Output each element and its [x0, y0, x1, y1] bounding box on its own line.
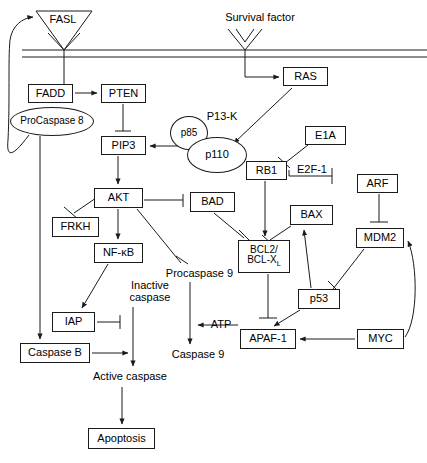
node-apoptosis-label: Apoptosis	[97, 433, 145, 445]
node-e2f1-label: E2F-1	[297, 164, 327, 176]
edge-myc-mdm2-curve	[405, 241, 415, 337]
node-survival-factor[interactable]: Survival factor	[205, 10, 315, 26]
node-caspase-b-label: Caspase B	[28, 347, 82, 359]
node-caspase9: Caspase 9	[163, 348, 233, 362]
node-inactive-caspase-line2: caspase	[130, 292, 171, 304]
pathway-diagram: FASL Survival factor FADD PTEN ProCaspas…	[0, 0, 427, 463]
survival-factor-receptor	[228, 29, 262, 77]
node-myc[interactable]: MYC	[357, 329, 404, 349]
edge-arf-mdm2	[370, 194, 388, 222]
node-bad-label: BAD	[201, 196, 224, 208]
node-atp: ATP	[205, 318, 237, 332]
node-p13k-label: P13-K	[207, 111, 238, 123]
edge-akt-frkh	[64, 198, 96, 219]
edge-pten-pip3	[115, 104, 131, 131]
node-p53-label: p53	[310, 293, 328, 305]
node-bax[interactable]: BAX	[290, 205, 333, 225]
node-nfkb[interactable]: NF-κB	[94, 243, 143, 263]
node-apoptosis[interactable]: Apoptosis	[88, 428, 155, 449]
edge-bcl2-apaf1	[259, 274, 277, 318]
node-nfkb-label: NF-κB	[103, 247, 134, 259]
node-active-caspase: Active caspase	[80, 370, 180, 384]
fas-receptor	[48, 33, 80, 84]
node-active-caspase-label: Active caspase	[93, 371, 167, 383]
node-pten-label: PTEN	[109, 88, 138, 100]
node-p53[interactable]: p53	[298, 289, 340, 309]
node-atp-label: ATP	[211, 319, 232, 331]
node-caspase-b[interactable]: Caspase B	[20, 343, 90, 363]
node-ras[interactable]: RAS	[283, 67, 328, 86]
edge-akt-bad	[144, 194, 183, 207]
edge-iap-inactive	[97, 315, 120, 329]
node-pten[interactable]: PTEN	[101, 84, 146, 103]
edge-bad-bcl2	[214, 213, 250, 241]
node-fadd-label: FADD	[36, 88, 65, 100]
node-fasl-label: FASL	[50, 14, 77, 26]
node-p110[interactable]: p110	[187, 137, 247, 173]
node-apaf1[interactable]: APAF-1	[240, 329, 296, 349]
plasma-membrane	[22, 50, 427, 57]
node-rb1[interactable]: RB1	[246, 161, 287, 180]
node-p13k: P13-K	[200, 110, 244, 124]
node-fadd[interactable]: FADD	[28, 84, 73, 103]
node-pip3-label: PIP3	[112, 140, 136, 152]
node-frkh[interactable]: FRKH	[52, 217, 99, 237]
node-e1a[interactable]: E1A	[305, 126, 346, 145]
node-akt-label: AKT	[108, 192, 129, 204]
node-bax-label: BAX	[300, 209, 322, 221]
node-e2f1[interactable]: E2F-1	[292, 163, 332, 177]
node-frkh-label: FRKH	[61, 221, 91, 233]
node-p110-label: p110	[205, 149, 229, 161]
edge-mdm2-p53	[328, 249, 364, 292]
node-apaf1-label: APAF-1	[249, 333, 287, 345]
node-mdm2-label: MDM2	[364, 232, 396, 244]
node-p85-label: p85	[181, 128, 198, 139]
node-ras-label: RAS	[294, 71, 317, 83]
node-survival-factor-label: Survival factor	[225, 12, 295, 24]
edge-p53-apaf1	[274, 310, 300, 326]
node-caspase9-label: Caspase 9	[172, 349, 225, 361]
node-akt[interactable]: AKT	[94, 188, 143, 208]
node-procaspase8-label: ProCaspase 8	[20, 116, 83, 127]
node-myc-label: MYC	[368, 333, 392, 345]
node-iap-label: IAP	[65, 316, 83, 328]
node-iap[interactable]: IAP	[52, 312, 95, 332]
edge-nfkb-iap	[82, 264, 108, 308]
node-bcl2-subscript: L	[277, 259, 281, 268]
node-inactive-caspase: Inactive caspase	[120, 278, 180, 306]
node-e1a-label: E1A	[315, 130, 336, 142]
edge-p53-bax	[304, 230, 311, 288]
node-mdm2[interactable]: MDM2	[356, 228, 404, 248]
edge-akt-procaspase9	[137, 209, 188, 264]
node-arf-label: ARF	[367, 178, 389, 190]
node-procaspase8[interactable]: ProCaspase 8	[10, 107, 94, 136]
node-pip3[interactable]: PIP3	[101, 136, 146, 155]
node-fasl[interactable]: FASL	[34, 12, 92, 28]
node-rb1-label: RB1	[256, 165, 277, 177]
node-bcl2[interactable]: BCL2/ BCL-XL	[238, 240, 290, 273]
node-bcl2-label-line2: BCL-XL	[247, 255, 281, 268]
node-bad[interactable]: BAD	[190, 192, 235, 212]
node-arf[interactable]: ARF	[357, 174, 398, 193]
